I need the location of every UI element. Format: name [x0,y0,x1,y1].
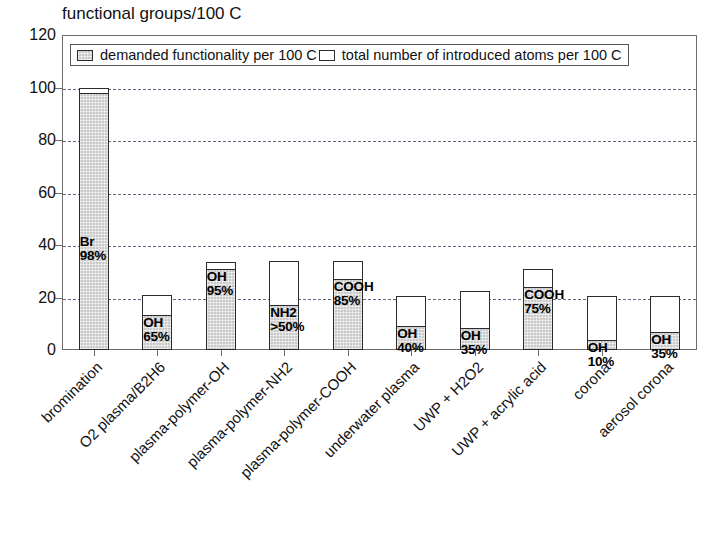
legend-label-demanded: demanded functionality per 100 C [100,48,317,63]
legend-item-demanded: demanded functionality per 100 C [77,48,317,63]
x-tick-mark [538,350,539,356]
bar-group[interactable]: Br98% [79,35,109,350]
bar-annotation-percent: 85% [334,294,374,308]
x-tick-mark [475,350,476,356]
y-tick-label-100: 100 [12,80,56,96]
y-tick-label-20: 20 [12,290,56,306]
x-tick-mark [348,350,349,356]
bar-demanded-segment[interactable] [79,93,109,350]
x-axis-label: aerosol corona [453,359,676,534]
bar-annotation-group: OH [651,333,677,347]
bar-annotation-group: OH [143,316,169,330]
bar-group[interactable]: OH35% [650,35,680,350]
x-tick-mark [665,350,666,356]
bar-group[interactable]: COOH85% [333,35,363,350]
bar-annotation-percent: 98% [80,249,106,263]
legend-swatch-hollow-icon [319,50,335,61]
bar-group[interactable]: NH2>50% [269,35,299,350]
bar-group[interactable]: OH65% [142,35,172,350]
bar-annotation: NH2>50% [270,306,304,334]
chart-title: functional groups/100 C [62,4,242,24]
bar-annotation-group: OH [461,329,487,343]
y-tick-label-80: 80 [12,132,56,148]
bar-annotation: COOH75% [524,288,564,316]
chart-container: functional groups/100 C 120100806040200 … [0,0,719,534]
x-tick-mark [284,350,285,356]
bar-annotation-group: NH2 [270,306,304,320]
bar-annotation: OH95% [207,270,233,298]
bar-annotation: Br98% [80,235,106,263]
x-tick-mark [411,350,412,356]
x-tick-mark [221,350,222,356]
bar-group[interactable]: OH35% [460,35,490,350]
bar-annotation-percent: 65% [143,330,169,344]
legend-swatch-filled-icon [77,50,93,61]
chart-legend: demanded functionality per 100 C total n… [70,44,629,66]
bar-annotation-group: COOH [524,288,564,302]
legend-item-total: total number of introduced atoms per 100… [319,48,622,63]
bar-annotation-group: COOH [334,280,374,294]
x-tick-mark [157,350,158,356]
y-tick-label-40: 40 [12,237,56,253]
bar-annotation-group: Br [80,235,106,249]
x-tick-mark [602,350,603,356]
bar-group[interactable]: OH95% [206,35,236,350]
bar-annotation-group: OH [207,270,233,284]
bar-annotation-percent: 75% [524,302,564,316]
bars-layer: Br98%OH65%OH95%NH2>50%COOH85%OH40%OH35%C… [62,35,697,350]
x-tick-mark [94,350,95,356]
bar-group[interactable]: OH40% [396,35,426,350]
legend-label-total: total number of introduced atoms per 100… [342,48,622,63]
bar-annotation: OH65% [143,316,169,344]
y-tick-label-60: 60 [12,185,56,201]
bar-annotation: COOH85% [334,280,374,308]
bar-annotation-group: OH [397,327,423,341]
bar-annotation-percent: 95% [207,284,233,298]
y-tick-label-120: 120 [12,27,56,43]
bar-group[interactable]: COOH75% [523,35,553,350]
y-tick-label-0: 0 [12,342,56,358]
bar-annotation-percent: >50% [270,320,304,334]
bar-annotation: OH35% [651,333,677,361]
bar-group[interactable]: OH10% [587,35,617,350]
